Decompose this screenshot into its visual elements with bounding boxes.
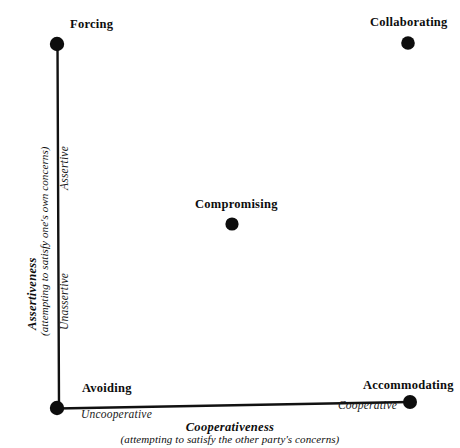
mode-label-collaborating: Collaborating <box>370 16 448 29</box>
y-axis-low-label: Unassertive <box>58 273 70 330</box>
conflict-modes-diagram: Forcing Collaborating Compromising Avoid… <box>0 0 460 448</box>
point-forcing[interactable] <box>50 37 64 51</box>
x-axis-low-label: Uncooperative <box>81 408 152 420</box>
mode-label-avoiding: Avoiding <box>82 382 132 395</box>
y-axis-subtitle: (attempting to satisfy one's own concern… <box>39 146 51 336</box>
point-collaborating[interactable] <box>401 36 415 50</box>
point-avoiding[interactable] <box>50 401 64 415</box>
x-axis-subtitle: (attempting to satisfy the other party's… <box>0 434 460 446</box>
x-axis-high-label: Cooperative <box>338 399 397 411</box>
mode-label-accommodating: Accommodating <box>363 379 454 392</box>
point-compromising[interactable] <box>225 217 238 230</box>
y-axis-line <box>58 44 60 408</box>
mode-label-compromising: Compromising <box>195 198 278 211</box>
point-accommodating[interactable] <box>403 395 417 409</box>
mode-label-forcing: Forcing <box>70 18 113 31</box>
y-axis-high-label: Assertive <box>58 146 70 190</box>
